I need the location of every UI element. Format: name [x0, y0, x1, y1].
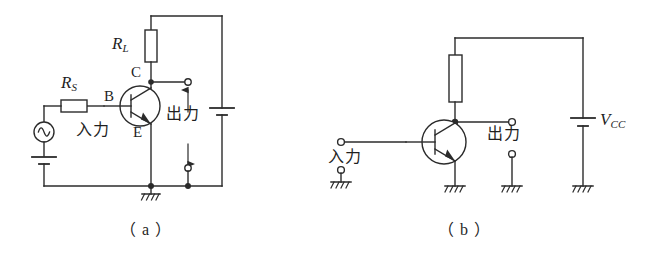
- circuit-b-load-resistor: [449, 55, 462, 122]
- circuit-a-group: [32, 16, 234, 200]
- circuit-a-source-resistor: [44, 100, 87, 122]
- circuit-b-input-label: 入力: [328, 149, 361, 165]
- circuit-b-group: [331, 38, 595, 192]
- circuit-a-bias-battery: [32, 157, 56, 186]
- circuit-a-load-resistor-label: RL: [112, 35, 129, 54]
- circuit-b-caption: （ b ）: [438, 222, 491, 238]
- circuit-b-ground-output: [502, 186, 522, 192]
- circuit-a-output-label: 出力: [166, 106, 199, 122]
- circuit-a-load-resistor: [145, 30, 157, 82]
- circuit-b-ground-input: [331, 182, 351, 188]
- circuit-b-supply-label: VCC: [600, 111, 625, 130]
- circuit-a-output-terminals[interactable]: [185, 79, 191, 189]
- circuit-b-ground-emitter: [445, 186, 465, 192]
- figure-root: RL RS C B E 入力 出力 （ a ） 入力 出力 VCC （ b ）: [0, 0, 660, 260]
- circuit-a-source-resistor-label: RS: [61, 74, 77, 93]
- circuit-a-top-rail: [151, 16, 222, 108]
- circuit-b-transistor: [406, 120, 466, 186]
- circuit-a-supply-battery: [210, 108, 234, 186]
- circuit-a-base-label: B: [104, 89, 114, 104]
- circuit-b-output-label: 出力: [487, 126, 520, 142]
- circuit-a-ac-source: [34, 122, 54, 156]
- circuit-a-collector-label: C: [131, 65, 141, 80]
- circuit-a-emitter-label: E: [133, 125, 142, 140]
- circuit-b-ground-supply: [573, 186, 593, 192]
- circuit-a-caption: （ a ）: [120, 222, 172, 238]
- circuit-b-supply-battery: [571, 118, 595, 186]
- circuit-b-top-rail: [455, 38, 583, 118]
- circuit-a-input-label: 入力: [76, 122, 109, 138]
